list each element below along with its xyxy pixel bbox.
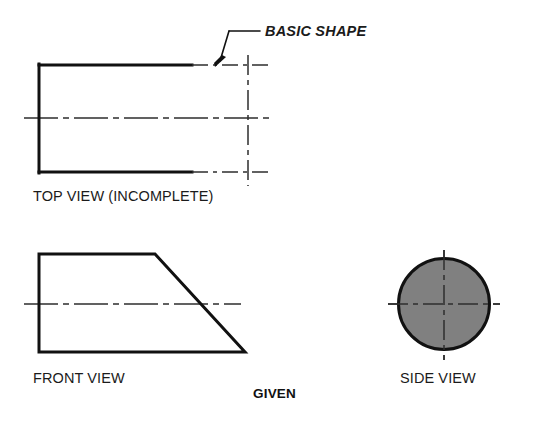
top-view-label: TOP VIEW (INCOMPLETE) <box>33 188 213 204</box>
front-view-outline <box>39 254 245 352</box>
given-caption: GIVEN <box>253 386 296 401</box>
basic-shape-callout-group <box>214 31 260 67</box>
side-view-label: SIDE VIEW <box>400 370 476 386</box>
technical-drawing-canvas: BASIC SHAPE TOP VIEW (INCOMPLETE) FRONT … <box>0 0 533 427</box>
front-view-group <box>24 254 245 352</box>
side-view-group <box>388 250 500 360</box>
basic-shape-label: BASIC SHAPE <box>265 23 367 39</box>
front-view-label: FRONT VIEW <box>33 370 125 386</box>
top-view-group <box>24 55 273 186</box>
drawing-sheet: BASIC SHAPE TOP VIEW (INCOMPLETE) FRONT … <box>0 0 533 427</box>
